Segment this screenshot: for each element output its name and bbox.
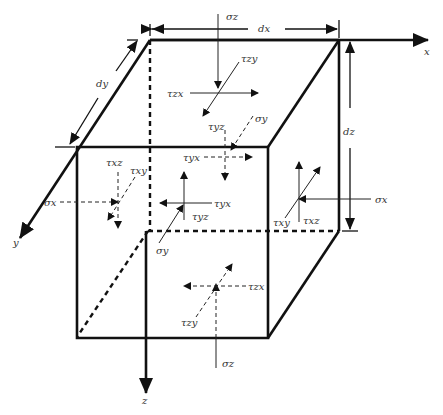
tau-zx-bottom: τzx	[248, 281, 265, 292]
right-face-stresses: σx τxz τxy	[273, 162, 388, 228]
sigma-y-front: σy	[156, 245, 169, 256]
sigma-z-top: σz	[226, 11, 239, 22]
bottom-face-stresses: σz τzx τzy	[181, 264, 265, 369]
tau-yx-front: τyx	[214, 198, 231, 209]
tau-xy-right: τxy	[273, 217, 290, 228]
front-face-stresses: σy τyx τyz	[156, 172, 231, 256]
z-axis-label: z	[141, 395, 148, 406]
tau-zx-top: τzx	[167, 88, 184, 99]
tau-xz-right: τxz	[303, 215, 320, 226]
sigma-x-left: σx	[44, 197, 57, 208]
dz-label: dz	[343, 126, 355, 137]
sigma-y-back: σy	[255, 113, 268, 124]
x-axis-label: x	[424, 46, 430, 57]
tau-xy-left: τxy	[130, 165, 147, 176]
tau-yz-back: τyz	[208, 121, 225, 132]
axes: x y z	[12, 40, 430, 406]
tau-zy-bottom: τzy	[181, 317, 198, 328]
dx-label: dx	[258, 23, 270, 34]
left-face-stresses: σx τxz τxy	[44, 157, 147, 228]
sigma-z-bottom: σz	[222, 358, 235, 369]
sigma-x-right: σx	[375, 194, 388, 205]
dy-label: dy	[96, 78, 108, 89]
dimension-dx: dx	[150, 20, 339, 38]
tau-xz-left: τxz	[106, 157, 123, 168]
cube-edges	[77, 40, 339, 338]
tau-zy-top: τzy	[241, 53, 258, 64]
tau-yx-back: τyx	[183, 152, 200, 163]
y-axis-label: y	[12, 237, 19, 248]
tau-yz-front: τyz	[192, 211, 209, 222]
stress-cube-diagram: x y z dx dy dz σz τzx	[0, 0, 443, 415]
y-axis	[20, 40, 150, 238]
dimension-dz: dz	[342, 42, 358, 231]
dimension-dy: dy	[55, 40, 138, 147]
top-face-stresses: σz τzx τzy	[167, 11, 258, 116]
